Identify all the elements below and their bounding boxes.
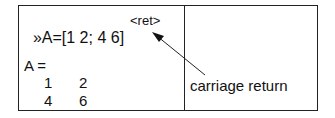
arrow-line bbox=[157, 36, 205, 75]
annotation-arrow bbox=[0, 0, 335, 118]
annotation-label: carriage return bbox=[190, 78, 288, 93]
